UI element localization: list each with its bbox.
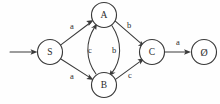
state-diagram-canvas: a a b b c c	[0, 0, 220, 104]
edge-label-s-to-a: a	[70, 21, 74, 31]
node-s-label: S	[47, 47, 52, 57]
node-a[interactable]: A	[92, 3, 117, 28]
node-a-label: A	[101, 10, 108, 20]
edge-s-to-b: a	[61, 59, 94, 81]
edge-label-b-to-a: c	[88, 45, 92, 55]
automaton-graph: a a b b c c	[0, 0, 220, 104]
edge-label-a-to-b: b	[112, 45, 116, 55]
edge-label-b-to-c: c	[128, 70, 132, 80]
edge-s-to-b-line	[61, 59, 91, 78]
node-s[interactable]: S	[38, 40, 63, 65]
node-c-label: C	[149, 47, 155, 57]
node-c[interactable]: C	[140, 40, 165, 65]
edge-s-to-a-line	[61, 23, 91, 46]
edge-a-to-b: b	[109, 26, 120, 77]
edge-b-to-c: c	[115, 58, 145, 80]
edge-label-c-to-empty: a	[176, 37, 180, 47]
edge-label-s-to-b: a	[70, 71, 74, 81]
edge-b-to-a: c	[88, 23, 97, 74]
node-b-label: B	[101, 80, 107, 90]
node-empty-set[interactable]: Ø	[192, 40, 217, 65]
node-empty-set-label: Ø	[200, 47, 207, 58]
edge-c-to-empty: a	[165, 37, 192, 55]
edge-label-a-to-c: b	[127, 20, 131, 30]
start-arrow	[10, 49, 38, 55]
node-b[interactable]: B	[92, 73, 117, 98]
